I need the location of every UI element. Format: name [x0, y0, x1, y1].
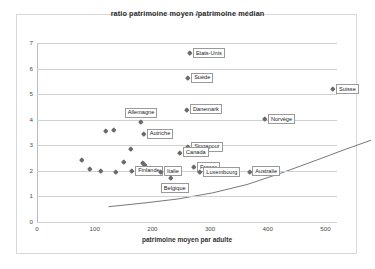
x-tick-label: 400: [253, 225, 283, 232]
data-point-label: Italie: [164, 166, 182, 176]
data-point[interactable]: [121, 159, 126, 164]
data-point[interactable]: [111, 127, 116, 132]
gridline-y: [37, 222, 337, 223]
data-point-label: Belgique: [161, 183, 189, 193]
gridline-y: [37, 43, 337, 44]
gridline-y: [37, 69, 337, 70]
y-tick-label: 4: [9, 116, 33, 123]
data-point[interactable]: [98, 168, 103, 173]
x-tick-label: 300: [195, 225, 225, 232]
data-point-label: Norvège: [268, 114, 295, 124]
data-point-label: Canada: [183, 147, 209, 157]
plot-area: Etats-UnisSuèdeSuisseDanemarkAllemagneNo…: [37, 43, 337, 222]
data-point[interactable]: [186, 75, 191, 80]
data-point-label: Allemagne: [125, 108, 157, 118]
y-tick-label: 7: [9, 39, 33, 46]
y-tick-label: 0: [9, 218, 33, 225]
data-point-label: Luxembourg: [203, 167, 240, 177]
data-point[interactable]: [104, 129, 109, 134]
x-tick-label: 0: [22, 225, 52, 232]
data-point-label: Danemark: [190, 104, 222, 114]
data-point-label: Australie: [252, 166, 280, 176]
y-tick-label: 1: [9, 192, 33, 199]
data-point-label: Suisse: [336, 84, 359, 94]
x-tick-label: 200: [137, 225, 167, 232]
data-point[interactable]: [168, 175, 173, 180]
x-tick-label: 500: [310, 225, 340, 232]
chart-title: ratio patrimoine moyen /patrimoine média…: [0, 9, 375, 18]
gridline-y: [37, 94, 337, 95]
gridline-y: [37, 171, 337, 172]
x-axis-label: patrimoine moyen par adulte: [37, 236, 337, 243]
data-point[interactable]: [247, 169, 252, 174]
x-tick-label: 100: [80, 225, 110, 232]
y-tick-label: 2: [9, 167, 33, 174]
data-point[interactable]: [191, 164, 196, 169]
data-point[interactable]: [128, 146, 133, 151]
y-tick-label: 3: [9, 141, 33, 148]
data-point-label: Etats-Unis: [193, 48, 225, 58]
data-point[interactable]: [262, 117, 267, 122]
gridline-y: [37, 196, 337, 197]
data-point[interactable]: [113, 169, 118, 174]
data-point[interactable]: [330, 86, 335, 91]
data-point[interactable]: [187, 51, 192, 56]
data-point-label: Autriche: [147, 129, 174, 139]
data-point-label: Suède: [191, 73, 213, 83]
data-point[interactable]: [158, 169, 163, 174]
data-point[interactable]: [178, 150, 183, 155]
data-point[interactable]: [130, 168, 135, 173]
data-point[interactable]: [141, 131, 146, 136]
data-point[interactable]: [184, 107, 189, 112]
y-tick-label: 5: [9, 90, 33, 97]
data-point[interactable]: [79, 157, 84, 162]
y-tick-label: 6: [9, 65, 33, 72]
